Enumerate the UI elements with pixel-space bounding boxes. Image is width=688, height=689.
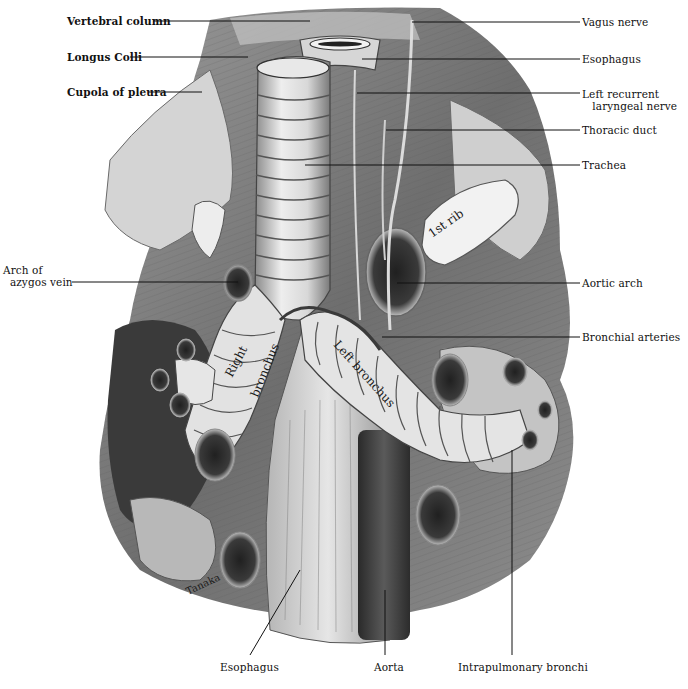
label-left-recurrent-laryngeal-nerve: Left recurrent laryngeal nerve (582, 88, 677, 112)
aortic-arch-illustration (366, 228, 426, 316)
label-aorta: Aorta (374, 661, 404, 673)
label-bronchial-arteries: Bronchial arteries (582, 331, 680, 343)
anatomy-figure: 1st rib Right bronchus Left bronchus Tan… (0, 0, 688, 689)
label-intrapulmonary-bronchi: Intrapulmonary bronchi (458, 661, 588, 673)
descending-aorta-illustration (358, 430, 410, 640)
label-esophagus-top: Esophagus (582, 53, 641, 65)
label-esophagus-bottom: Esophagus (220, 661, 279, 673)
label-aortic-arch: Aortic arch (582, 277, 643, 289)
label-cupola-of-pleura: Cupola of pleura (67, 86, 167, 98)
label-vagus-nerve: Vagus nerve (582, 16, 648, 28)
label-trachea: Trachea (582, 159, 626, 171)
azygos-vein-illustration (224, 265, 252, 301)
label-arch-of-azygos-vein: Arch of azygos vein (3, 264, 73, 288)
label-longus-colli: Longus Colli (67, 51, 142, 63)
label-vertebral-column: Vertebral column (67, 15, 171, 27)
label-thoracic-duct: Thoracic duct (582, 124, 657, 136)
